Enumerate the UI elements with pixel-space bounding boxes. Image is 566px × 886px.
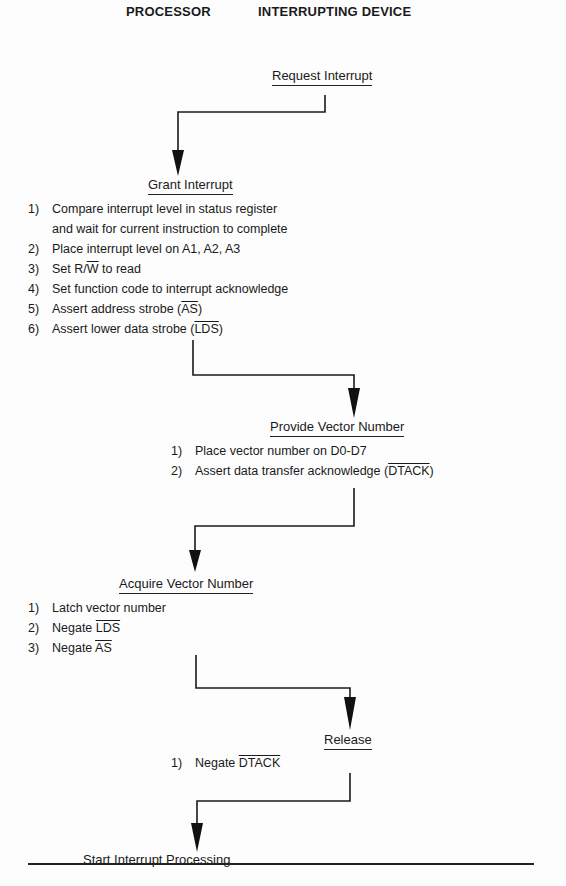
list-item: 1)Compare interrupt level in status regi… bbox=[28, 199, 288, 219]
arrow-down-icon bbox=[172, 150, 184, 176]
active-low-signal: LDS bbox=[96, 621, 120, 635]
list-item: 3)Negate AS bbox=[28, 638, 166, 658]
list-item: 1)Place vector number on D0-D7 bbox=[171, 441, 434, 461]
arrow-down-icon bbox=[189, 550, 201, 572]
active-low-signal: AS bbox=[95, 641, 112, 655]
list-item: 2)Negate LDS bbox=[28, 618, 166, 638]
bottom-rule bbox=[28, 863, 534, 865]
list-item: 6)Assert lower data strobe (LDS) bbox=[28, 319, 288, 339]
arrow-down-icon bbox=[344, 697, 356, 730]
active-low-signal: AS bbox=[181, 302, 198, 316]
arrow-down-icon bbox=[348, 388, 360, 418]
connector-provide-acquire bbox=[195, 488, 354, 560]
request-interrupt-heading: Request Interrupt bbox=[272, 69, 372, 86]
connector-release-start bbox=[197, 773, 350, 832]
provide-vector-number-heading: Provide Vector Number bbox=[270, 420, 404, 437]
provide-vector-number-list: 1)Place vector number on D0-D7 2)Assert … bbox=[171, 441, 434, 481]
active-low-signal: DTACK bbox=[388, 464, 429, 478]
active-low-signal: LDS bbox=[194, 322, 218, 336]
release-heading: Release bbox=[324, 733, 372, 750]
list-item: 1)Negate DTACK bbox=[171, 753, 280, 773]
connector-request-grant bbox=[178, 95, 325, 160]
start-interrupt-processing-heading: Start Interrupt Processing bbox=[83, 853, 230, 869]
grant-interrupt-heading: Grant Interrupt bbox=[148, 178, 233, 195]
active-low-signal: DTACK bbox=[239, 756, 280, 770]
list-item: 2)Assert data transfer acknowledge (DTAC… bbox=[171, 461, 434, 481]
list-item: 1)Latch vector number bbox=[28, 598, 166, 618]
active-low-signal: W bbox=[87, 262, 99, 276]
list-item: and wait for current instruction to comp… bbox=[28, 219, 288, 239]
list-item: 4)Set function code to interrupt acknowl… bbox=[28, 279, 288, 299]
list-item: 2)Place interrupt level on A1, A2, A3 bbox=[28, 239, 288, 259]
list-item: 5)Assert address strobe (AS) bbox=[28, 299, 288, 319]
acquire-vector-number-list: 1)Latch vector number 2)Negate LDS 3)Neg… bbox=[28, 598, 166, 658]
release-list: 1)Negate DTACK bbox=[171, 753, 280, 773]
list-item: 3)Set R/W to read bbox=[28, 259, 288, 279]
connector-acquire-release bbox=[196, 655, 350, 705]
grant-interrupt-list: 1)Compare interrupt level in status regi… bbox=[28, 199, 288, 339]
acquire-vector-number-heading: Acquire Vector Number bbox=[119, 577, 253, 594]
connector-grant-provide bbox=[193, 340, 354, 398]
arrow-down-icon bbox=[191, 823, 203, 852]
